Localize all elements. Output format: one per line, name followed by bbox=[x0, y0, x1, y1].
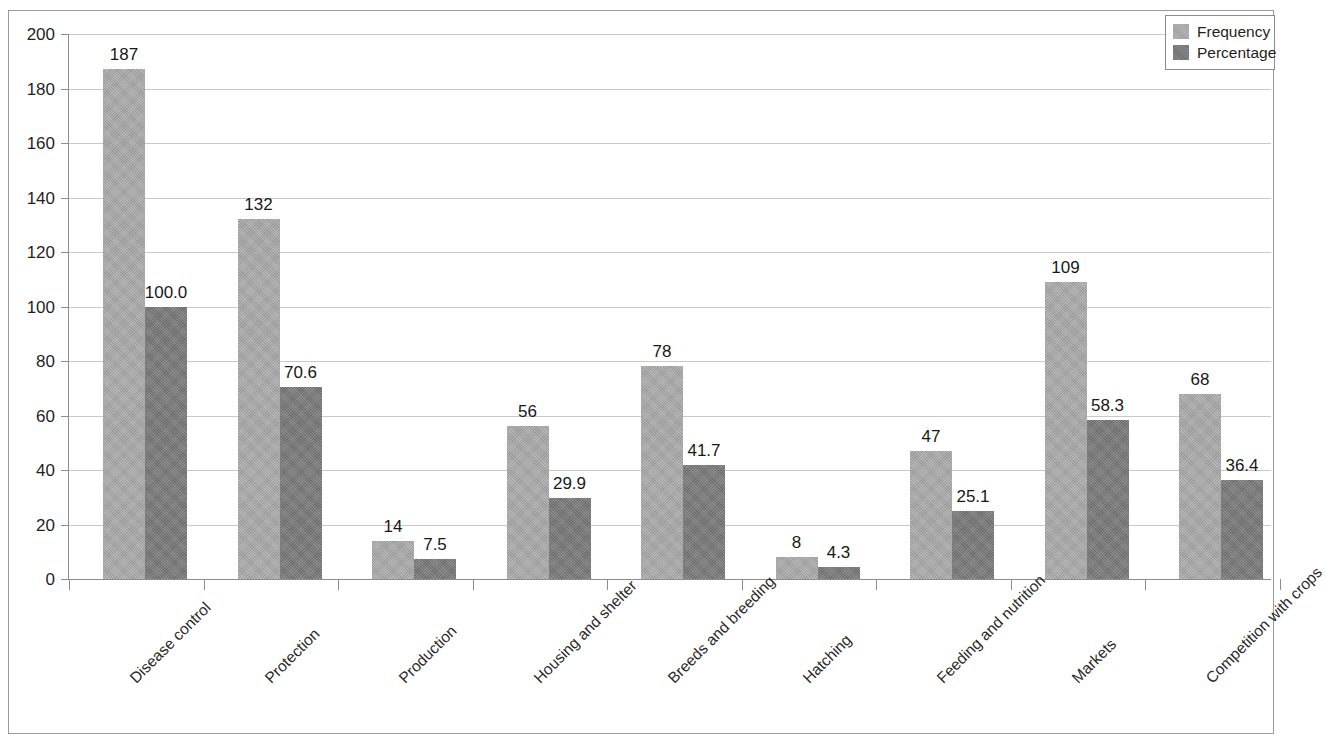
category-label: Housing and shelter bbox=[531, 578, 639, 686]
bar-value-label: 47 bbox=[896, 428, 966, 445]
bar-freq[interactable] bbox=[1179, 394, 1221, 579]
bar-value-label: 70.6 bbox=[266, 364, 336, 381]
bar-freq[interactable] bbox=[103, 69, 145, 579]
chart-frame: 187100.013270.6147.55629.97841.784.34725… bbox=[8, 10, 1274, 734]
x-axis-tick bbox=[1011, 579, 1012, 590]
bar-pct[interactable] bbox=[683, 465, 725, 579]
bar-value-label: 29.9 bbox=[535, 475, 605, 492]
y-axis-tick-label: 120 bbox=[9, 244, 55, 261]
bar-value-label: 56 bbox=[493, 403, 563, 420]
legend-label-frequency: Frequency bbox=[1197, 24, 1270, 40]
y-axis-tick-label: 180 bbox=[9, 80, 55, 97]
bar-pct[interactable] bbox=[549, 498, 591, 579]
x-axis-tick bbox=[742, 579, 743, 590]
y-axis-tick bbox=[61, 416, 69, 417]
y-axis-tick bbox=[61, 470, 69, 471]
y-axis-tick-label: 160 bbox=[9, 135, 55, 152]
x-axis-tick bbox=[473, 579, 474, 590]
bar-freq[interactable] bbox=[1045, 282, 1087, 579]
category-label: Protection bbox=[262, 626, 322, 686]
y-axis-tick bbox=[61, 34, 69, 35]
y-axis-tick bbox=[61, 252, 69, 253]
bar-pct[interactable] bbox=[414, 559, 456, 579]
y-axis-tick-label: 140 bbox=[9, 189, 55, 206]
bar-value-label: 109 bbox=[1031, 259, 1101, 276]
x-axis-tick bbox=[69, 579, 70, 590]
category-label: Production bbox=[396, 623, 459, 686]
legend-swatch-frequency bbox=[1173, 24, 1189, 39]
legend-swatch-percentage bbox=[1173, 45, 1189, 60]
legend-item-frequency[interactable]: Frequency bbox=[1173, 21, 1268, 42]
bar-value-label: 132 bbox=[224, 196, 294, 213]
bar-pct[interactable] bbox=[818, 567, 860, 579]
y-axis-tick-label: 100 bbox=[9, 298, 55, 315]
y-axis-tick bbox=[61, 198, 69, 199]
bar-pct[interactable] bbox=[1087, 420, 1129, 579]
gridline bbox=[69, 579, 1271, 580]
y-axis-tick-label: 200 bbox=[9, 26, 55, 43]
bar-pct[interactable] bbox=[280, 387, 322, 579]
bar-pct[interactable] bbox=[145, 307, 187, 580]
bar-value-label: 100.0 bbox=[131, 284, 201, 301]
y-axis-tick bbox=[61, 525, 69, 526]
bar-pct[interactable] bbox=[1221, 480, 1263, 579]
bar-value-label: 4.3 bbox=[804, 544, 874, 561]
y-axis-tick-label: 40 bbox=[9, 462, 55, 479]
x-axis-tick bbox=[1280, 579, 1281, 590]
x-axis-tick bbox=[607, 579, 608, 590]
legend-item-percentage[interactable]: Percentage bbox=[1173, 42, 1268, 63]
bar-freq[interactable] bbox=[238, 219, 280, 579]
category-label: Markets bbox=[1069, 636, 1119, 686]
category-label: Breeds and breeding bbox=[665, 573, 778, 686]
category-label: Disease control bbox=[127, 599, 213, 685]
bar-value-label: 41.7 bbox=[669, 442, 739, 459]
bar-freq[interactable] bbox=[507, 426, 549, 579]
y-axis-tick bbox=[61, 307, 69, 308]
y-axis-tick bbox=[61, 579, 69, 580]
x-axis-tick bbox=[1145, 579, 1146, 590]
category-label: Competition with crops bbox=[1203, 564, 1325, 686]
x-axis-tick bbox=[876, 579, 877, 590]
bar-freq[interactable] bbox=[641, 366, 683, 579]
gridline bbox=[69, 89, 1271, 90]
bar-value-label: 58.3 bbox=[1073, 397, 1143, 414]
y-axis-tick bbox=[61, 89, 69, 90]
y-axis-tick bbox=[61, 143, 69, 144]
bar-value-label: 36.4 bbox=[1207, 457, 1277, 474]
bar-value-label: 68 bbox=[1165, 371, 1235, 388]
legend-label-percentage: Percentage bbox=[1197, 45, 1276, 61]
x-axis-tick bbox=[338, 579, 339, 590]
bar-value-label: 78 bbox=[627, 343, 697, 360]
bar-freq[interactable] bbox=[910, 451, 952, 579]
x-axis-tick bbox=[204, 579, 205, 590]
category-label: Feeding and nutrition bbox=[934, 572, 1048, 686]
y-axis-tick-label: 60 bbox=[9, 407, 55, 424]
bar-value-label: 7.5 bbox=[400, 536, 470, 553]
bar-value-label: 14 bbox=[358, 518, 428, 535]
bar-value-label: 25.1 bbox=[938, 488, 1008, 505]
gridline bbox=[69, 34, 1271, 35]
gridline bbox=[69, 143, 1271, 144]
bar-pct[interactable] bbox=[952, 511, 994, 579]
bar-value-label: 187 bbox=[89, 46, 159, 63]
chart-legend: Frequency Percentage bbox=[1165, 15, 1275, 70]
y-axis-tick-label: 20 bbox=[9, 516, 55, 533]
plot-area: 187100.013270.6147.55629.97841.784.34725… bbox=[69, 34, 1271, 579]
y-axis-tick bbox=[61, 361, 69, 362]
category-label: Hatching bbox=[800, 632, 854, 686]
y-axis-tick-label: 80 bbox=[9, 353, 55, 370]
y-axis-tick-label: 0 bbox=[9, 571, 55, 588]
